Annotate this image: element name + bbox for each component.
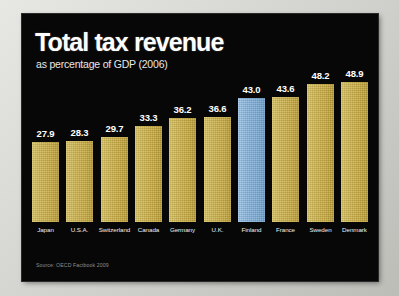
source-note: Source: OECD Factbook 2009 (36, 262, 109, 268)
bar-column: 29.7 (101, 64, 128, 222)
bar-column: 36.2 (169, 64, 196, 222)
bar-value-label: 43.6 (265, 83, 306, 94)
x-axis-labels: JapanU.S.A.SwitzerlandCanadaGermanyU.K.F… (32, 226, 368, 240)
bar (238, 98, 265, 222)
bar-column: 43.0 (238, 64, 265, 222)
bar-value-label: 29.7 (94, 123, 135, 134)
bar (169, 118, 196, 222)
x-axis-label-denmark: Denmark (334, 226, 375, 233)
bar (204, 117, 231, 222)
bar-column: 43.6 (272, 64, 299, 222)
bar (341, 82, 368, 222)
bar-value-label: 48.9 (334, 68, 375, 79)
page-title: Total tax revenue (35, 30, 223, 55)
bar (101, 137, 128, 222)
bar-value-label: 36.6 (197, 103, 238, 114)
bar (32, 142, 59, 222)
bar (66, 141, 93, 222)
poster-frame: Total tax revenue as percentage of GDP (… (0, 0, 399, 296)
bar-column: 27.9 (32, 64, 59, 222)
bar-chart-plot-area: 27.928.329.733.336.236.643.043.648.248.9 (32, 64, 368, 222)
bar-column: 48.9 (341, 64, 368, 222)
bar (135, 126, 162, 222)
bar-column: 48.2 (307, 64, 334, 222)
bar-column: 28.3 (66, 64, 93, 222)
bar-column: 33.3 (135, 64, 162, 222)
chart-panel: Total tax revenue as percentage of GDP (… (22, 14, 378, 281)
bar (272, 97, 299, 222)
bar (307, 84, 334, 222)
bar-column: 36.6 (204, 64, 231, 222)
